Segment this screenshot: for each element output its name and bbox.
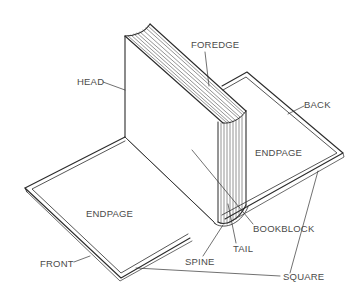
label-back: BACK: [304, 100, 331, 110]
leader-bookblock: [192, 150, 253, 224]
label-foredge: FOREDGE: [191, 40, 239, 50]
label-square: SQUARE: [283, 272, 324, 282]
label-tail: TAIL: [233, 244, 253, 254]
leader-square-left: [136, 268, 280, 276]
book-anatomy-diagram: HEAD FOREDGE BACK ENDPAGE ENDPAGE BOOKBL…: [0, 0, 364, 302]
label-spine: SPINE: [185, 257, 215, 267]
leader-spine: [203, 225, 223, 256]
leader-front: [74, 256, 90, 262]
book-illustration: [0, 0, 364, 302]
leader-foredge: [205, 52, 209, 86]
label-front: FRONT: [40, 259, 74, 269]
leader-square-right: [290, 171, 318, 273]
label-endpage-right: ENDPAGE: [255, 148, 302, 158]
leader-head: [103, 82, 125, 90]
label-endpage-left: ENDPAGE: [86, 209, 133, 219]
label-head: HEAD: [77, 77, 104, 87]
label-bookblock: BOOKBLOCK: [253, 224, 314, 234]
endpage-gutter-lines: [125, 137, 216, 224]
